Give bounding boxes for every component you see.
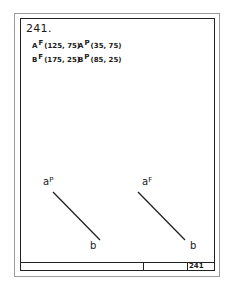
title-block xyxy=(20,262,215,271)
title-block-divider xyxy=(187,262,188,271)
line-drawing xyxy=(0,0,232,294)
label-b-profile: b xyxy=(90,240,96,251)
profile-line-ab xyxy=(53,192,100,240)
label-a-frontal: aF xyxy=(142,176,152,187)
label-b-frontal: b xyxy=(190,240,196,251)
label-a-profile: aP xyxy=(43,176,53,187)
frontal-line-ab xyxy=(138,192,185,240)
title-block-divider xyxy=(143,262,144,271)
page-number: 241 xyxy=(189,262,204,271)
